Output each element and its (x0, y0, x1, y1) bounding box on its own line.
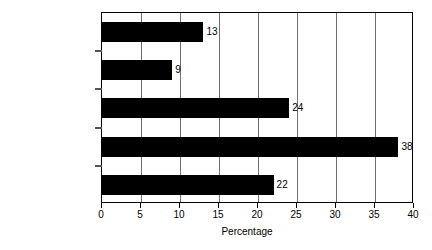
x-axis-title: Percentage (0, 226, 432, 237)
x-axis-tick (140, 203, 141, 208)
bar-row: 13 (102, 13, 412, 51)
bar-row: 38 (102, 128, 412, 166)
x-axis-tick-label: 10 (159, 209, 199, 221)
y-axis-tick (95, 50, 102, 52)
bar-value-label: 24 (289, 98, 303, 118)
bar[interactable] (102, 60, 172, 80)
x-axis-tick-label: 35 (354, 209, 394, 221)
bar-chart: 139243822 Product Never Intended Product… (0, 0, 432, 250)
bar-value-label: 9 (172, 60, 181, 80)
x-axis-tick-label: 0 (81, 209, 121, 221)
bar-row: 9 (102, 51, 412, 89)
y-axis-tick (95, 165, 102, 167)
bar[interactable] (102, 22, 203, 42)
bar[interactable] (102, 98, 289, 118)
x-axis-tick-label: 25 (276, 209, 316, 221)
x-axis-tick (101, 203, 102, 208)
bar[interactable] (102, 137, 398, 157)
x-axis-tick-label: 15 (198, 209, 238, 221)
x-axis-tick (218, 203, 219, 208)
plot-area: 139243822 (101, 12, 413, 203)
x-axis-tick-label: 40 (393, 209, 432, 221)
x-axis-tick (374, 203, 375, 208)
x-axis-tick (413, 203, 414, 208)
bar-value-label: 13 (203, 22, 217, 42)
x-axis-tick-label: 5 (120, 209, 160, 221)
x-axis-tick-label: 30 (315, 209, 355, 221)
bar-value-label: 38 (398, 137, 412, 157)
bar-row: 24 (102, 89, 412, 127)
bar-value-label: 22 (274, 175, 288, 195)
x-axis-tick (257, 203, 258, 208)
x-axis-tick (296, 203, 297, 208)
x-axis-tick (179, 203, 180, 208)
x-axis-tick (335, 203, 336, 208)
bar-row: 22 (102, 166, 412, 204)
x-axis-title-text: Percentage (221, 226, 272, 237)
y-axis-tick (95, 88, 102, 90)
bar[interactable] (102, 175, 274, 195)
x-axis-tick-label: 20 (237, 209, 277, 221)
y-axis-tick (95, 127, 102, 129)
